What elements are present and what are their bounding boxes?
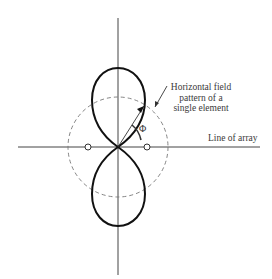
line-of-array-label: Line of array <box>208 133 258 144</box>
field-pattern-label-line-3: single element <box>166 103 236 114</box>
field-pattern-label: Horizontal field pattern of a single ele… <box>166 82 236 114</box>
field-pattern-label-line-1: Horizontal field <box>166 82 236 93</box>
element-right-icon <box>144 144 150 150</box>
element-left-icon <box>85 144 91 150</box>
angle-phi-label: Φ <box>139 124 146 135</box>
field-pattern-label-line-2: pattern of a <box>166 93 236 104</box>
